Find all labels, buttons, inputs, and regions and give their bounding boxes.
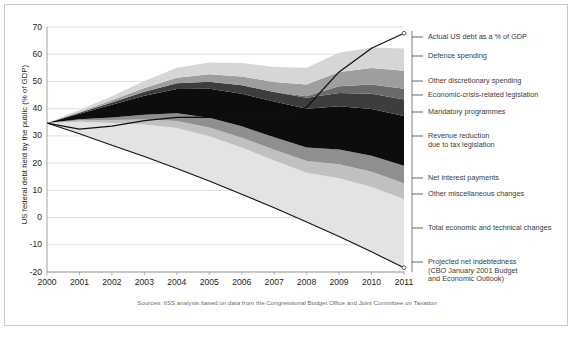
y-tick-label: -20 [16,267,42,277]
source-note: Sources: IISS analysis based on data fro… [0,299,574,306]
legend-item-economic-crisis-related-legislation[interactable]: Economic-crisis-related legislation [428,91,538,100]
legend-leader-lines [412,37,423,262]
legend-item-actual-us-debt[interactable]: Actual US debt as a % of GDP [428,33,527,42]
plot-area-wrapper: 706050403020100-10-20 200020012002200320… [0,0,574,338]
legend-item-other-miscellaneous-changes[interactable]: Other miscellaneous changes [428,190,524,199]
legend-item-other-discretionary-spending[interactable]: Other discretionary spending [428,77,521,86]
legend-item-net-interest-payments[interactable]: Net interest payments [428,174,499,183]
y-tick-label: 70 [16,22,42,32]
area-bands [47,47,404,267]
legend-item-total-economic-and-technical-changes[interactable]: Total economic and technical changes [428,224,551,233]
chart-figure: 706050403020100-10-20 200020012002200320… [0,0,574,338]
legend-item-revenue-reduction[interactable]: Revenue reduction due to tax legislation [428,132,495,149]
legend-item-mandatory-programmes[interactable]: Mandatory programmes [428,108,505,117]
legend-item-projected-net-indebtedness[interactable]: Projected net indebtedness (CBO January … [428,258,518,284]
x-tick-label: 2011 [384,277,424,287]
legend-item-defence-spending[interactable]: Defence spending [428,52,487,61]
y-axis-label: US federal debt held by the public (% of… [20,35,29,255]
stacked-area-chart [0,0,574,338]
